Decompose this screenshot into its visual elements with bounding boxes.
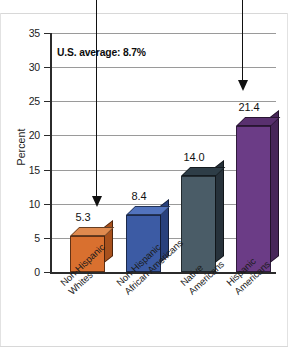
y-tick-label-35: 35 xyxy=(14,27,40,39)
y-tick-0 xyxy=(44,272,51,273)
y-tick-10 xyxy=(44,204,51,205)
y-tick-label-0: 0 xyxy=(14,266,40,278)
bar-hispanic-americans xyxy=(236,117,271,272)
y-axis-line xyxy=(50,33,52,273)
y-tick-label-25: 25 xyxy=(14,95,40,107)
us-average-annotation: U.S. average: 8.7% xyxy=(57,47,146,58)
y-axis-title: Percent xyxy=(15,117,27,177)
bar-1-value-label: 5.3 xyxy=(59,211,107,223)
annotation-arrow-1-head xyxy=(92,196,102,207)
annotation-arrow-2-shaft xyxy=(242,0,243,82)
bar-2-value-label: 8.4 xyxy=(115,190,163,202)
annotation-arrow-2-head xyxy=(238,80,248,91)
y-tick-25 xyxy=(44,101,51,102)
bar-4-side-face xyxy=(270,110,279,263)
y-tick-label-5: 5 xyxy=(14,232,40,244)
bar-3-value-label: 14.0 xyxy=(170,151,218,163)
y-tick-label-30: 30 xyxy=(14,61,40,73)
plot-area: 35 30 25 20 15 10 5 0 Percent U.S. avera… xyxy=(0,0,288,358)
y-tick-label-10: 10 xyxy=(14,198,40,210)
bar-4-value-label: 21.4 xyxy=(225,101,273,113)
y-tick-5 xyxy=(44,238,51,239)
bar-4-front-face xyxy=(236,126,271,272)
y-tick-20 xyxy=(44,135,51,136)
y-tick-35 xyxy=(44,33,51,34)
chart-figure: 35 30 25 20 15 10 5 0 Percent U.S. avera… xyxy=(0,0,288,358)
y-tick-15 xyxy=(44,170,51,171)
annotation-arrow-1-shaft xyxy=(96,0,97,198)
y-tick-30 xyxy=(44,67,51,68)
